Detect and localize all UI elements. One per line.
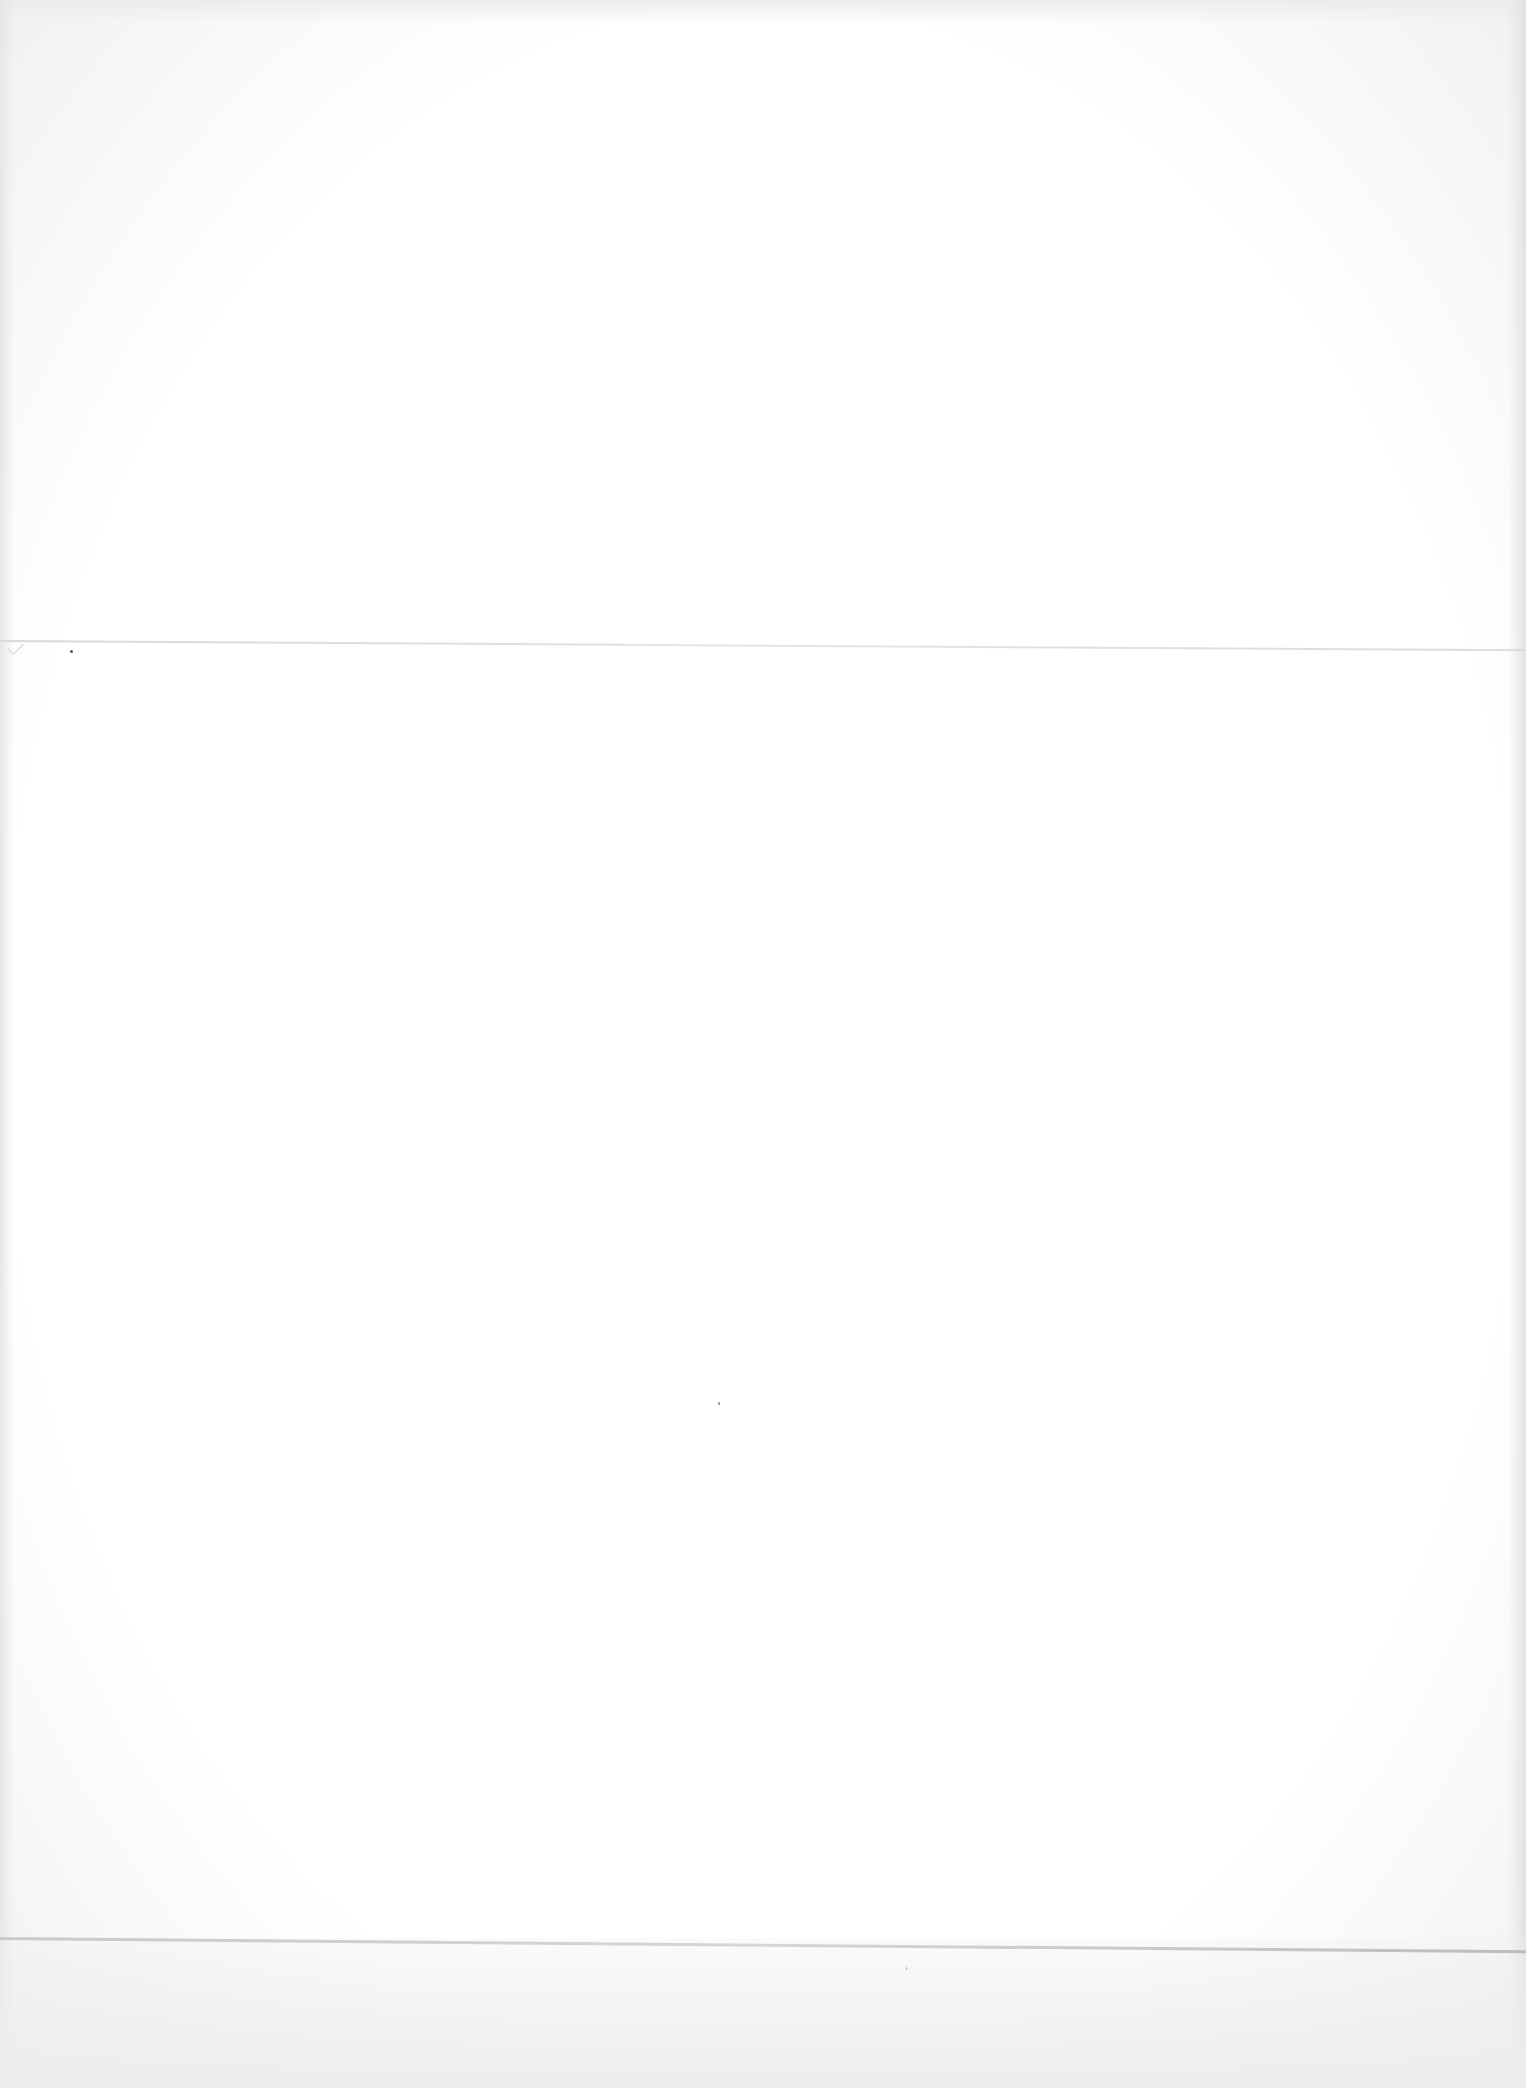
scan-edge-right: [1508, 0, 1526, 2088]
dust-speck: [906, 1967, 907, 1970]
scan-edge-top: [0, 0, 1526, 24]
dust-speck: [718, 1402, 720, 1405]
dust-speck: [70, 650, 73, 653]
fold-line-upper: [0, 640, 1526, 651]
blank-page: [0, 0, 1526, 2088]
scan-shadow-bottom: [0, 1938, 1526, 2088]
scan-edge-left: [0, 0, 14, 2088]
